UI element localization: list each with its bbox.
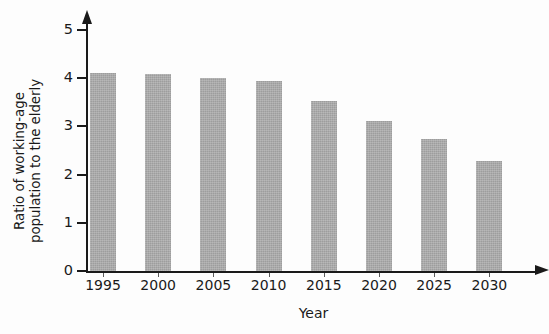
x-axis-arrow-icon [535, 265, 549, 275]
y-axis-tick-label-4: 4 [53, 70, 73, 85]
bar-2010 [256, 81, 282, 271]
y-axis-tick-label-0: 0 [53, 263, 73, 278]
x-axis-tick-label-2020: 2020 [349, 278, 409, 292]
y-axis-label: Ratio of working-age population to the e… [0, 32, 56, 290]
y-axis-tick-label-3: 3 [53, 118, 73, 133]
y-axis-tick-2 [77, 174, 86, 176]
bar-2030 [476, 161, 502, 271]
x-axis-tick-label-2005: 2005 [183, 278, 243, 292]
plot-area: 012345 19952000200520102015202020252030 [86, 12, 541, 273]
x-axis-tick-label-2015: 2015 [294, 278, 354, 292]
x-axis-label: Year [86, 305, 541, 321]
y-axis-tick-0 [77, 270, 86, 272]
bar-2015 [311, 101, 337, 271]
y-axis-tick-label-1: 1 [53, 215, 73, 230]
y-axis-tick-5 [77, 29, 86, 31]
bar-chart-figure: Ratio of working-age population to the e… [0, 0, 549, 334]
bar-2000 [145, 74, 171, 271]
y-axis-label-container: Ratio of working-age population to the e… [0, 0, 56, 290]
y-axis-tick-3 [77, 125, 86, 127]
x-axis-tick-label-2010: 2010 [239, 278, 299, 292]
y-axis-tick-1 [77, 222, 86, 224]
y-axis-label-line-2: population to the elderly [28, 79, 44, 243]
y-axis-tick-label-5: 5 [53, 22, 73, 37]
x-axis-tick-label-2000: 2000 [128, 278, 188, 292]
bar-2020 [366, 121, 392, 271]
x-axis-tick-label-2030: 2030 [459, 278, 519, 292]
y-axis-arrow-icon [82, 10, 92, 24]
x-axis-line [86, 271, 539, 273]
y-axis-line [86, 22, 88, 273]
x-axis-tick-label-1995: 1995 [73, 278, 133, 292]
bar-2025 [421, 139, 447, 271]
y-axis-tick-label-2: 2 [53, 167, 73, 182]
x-axis-tick-label-2025: 2025 [404, 278, 464, 292]
bar-2005 [200, 78, 226, 271]
y-axis-tick-4 [77, 77, 86, 79]
bar-1995 [90, 73, 116, 271]
y-axis-label-line-1: Ratio of working-age [12, 92, 28, 230]
